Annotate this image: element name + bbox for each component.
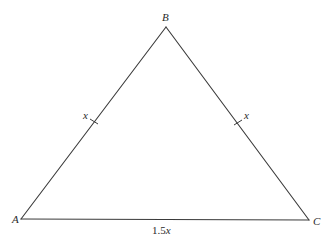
- vertex-label-a: A: [11, 213, 19, 225]
- side-ac: [21, 219, 309, 220]
- side-label-ac-variable: x: [165, 224, 171, 236]
- side-label-ab: x: [82, 109, 88, 121]
- side-label-bc: x: [243, 109, 249, 121]
- side-ab: [21, 27, 166, 219]
- vertex-label-c: C: [313, 215, 321, 227]
- vertex-label-b: B: [162, 11, 169, 23]
- triangle-diagram: A B C x x 1.5x: [0, 0, 335, 245]
- side-label-ac-number: 1.5: [152, 224, 166, 236]
- side-bc: [166, 27, 309, 220]
- side-label-ac: 1.5x: [152, 224, 171, 236]
